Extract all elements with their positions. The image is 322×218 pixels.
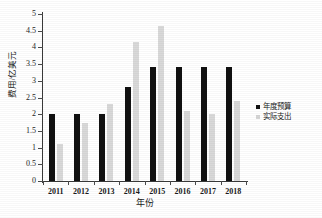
x-tick	[195, 181, 196, 185]
x-tick	[145, 181, 146, 185]
x-tick	[43, 181, 44, 185]
x-axis-title: 年份	[42, 198, 248, 208]
chart-legend: 年度预算 实际支出	[256, 102, 291, 122]
x-tick-label: 2018	[221, 187, 246, 196]
x-tick-label: 2012	[68, 187, 93, 196]
bar-actual	[133, 42, 139, 181]
bar-actual	[184, 111, 190, 181]
x-tick	[246, 181, 247, 185]
bar-budget	[176, 67, 182, 181]
legend-swatch-actual-icon	[256, 115, 260, 119]
bar-chart-figure: 00.511.522.533.544.55 201120122013201420…	[0, 0, 322, 218]
bar-actual	[234, 101, 240, 181]
legend-entry-budget: 年度预算	[256, 102, 291, 112]
x-tick	[170, 181, 171, 185]
legend-label-actual: 实际支出	[263, 112, 291, 122]
legend-entry-actual: 实际支出	[256, 112, 291, 122]
bar-budget	[99, 114, 105, 181]
legend-label-budget: 年度预算	[263, 102, 291, 112]
bar-budget	[150, 67, 156, 181]
bar-actual	[82, 123, 88, 181]
x-tick	[221, 181, 222, 185]
bar-actual	[107, 104, 113, 181]
x-tick	[119, 181, 120, 185]
x-tick-label: 2013	[94, 187, 119, 196]
legend-swatch-budget-icon	[256, 105, 260, 109]
bar-budget	[74, 114, 80, 181]
x-tick-label: 2011	[43, 187, 68, 196]
bar-budget	[226, 67, 232, 181]
bar-budget	[201, 67, 207, 181]
bar-budget	[49, 114, 55, 181]
x-tick-label: 2016	[170, 187, 195, 196]
x-tick	[94, 181, 95, 185]
bar-series-container	[0, 0, 322, 181]
x-tick-label: 2015	[145, 187, 170, 196]
y-axis-title: 费用/亿美元	[8, 35, 17, 115]
x-tick-label: 2017	[195, 187, 220, 196]
bar-actual	[209, 114, 215, 181]
x-tick	[68, 181, 69, 185]
bar-actual	[57, 144, 63, 181]
x-tick-label: 2014	[119, 187, 144, 196]
bar-budget	[125, 87, 131, 181]
bar-actual	[158, 26, 164, 181]
